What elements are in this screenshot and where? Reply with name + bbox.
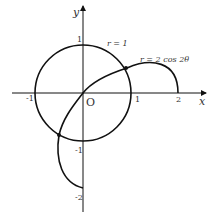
polar-diagram: y x O -1 1 2 1 -1 -2 r = 1 r = 2 cos 2θ bbox=[0, 0, 213, 218]
origin-label: O bbox=[86, 96, 95, 109]
x-axis-label: x bbox=[199, 95, 206, 108]
x-tick: -1 bbox=[26, 94, 34, 103]
intersection-point bbox=[124, 66, 128, 70]
y-tick: -2 bbox=[75, 193, 83, 202]
x-tick: 1 bbox=[135, 95, 140, 104]
y-tick: -1 bbox=[75, 146, 83, 155]
circle-label: r = 1 bbox=[107, 39, 128, 48]
x-tick: 2 bbox=[176, 95, 181, 104]
y-axis-label: y bbox=[72, 6, 80, 19]
y-tick: 1 bbox=[77, 35, 82, 44]
curve-label: r = 2 cos 2θ bbox=[140, 55, 189, 64]
intersection-point bbox=[57, 133, 61, 137]
